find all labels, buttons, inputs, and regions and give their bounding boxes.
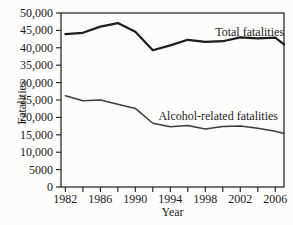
- y-tick-label: 35,000: [20, 58, 53, 72]
- y-tick-label: 5000: [29, 163, 53, 177]
- x-tick-label: 1998: [193, 192, 217, 206]
- y-tick-label: 45,000: [20, 23, 53, 37]
- y-tick-label: 10,000: [20, 145, 53, 159]
- x-tick-label: 1982: [53, 192, 77, 206]
- y-tick-label: 40,000: [20, 41, 53, 55]
- x-tick-label: 1990: [123, 192, 147, 206]
- fatalities-line-chart: 0500010,00015,00020,00025,00030,00035,00…: [0, 0, 293, 225]
- x-tick-label: 2002: [228, 192, 252, 206]
- x-tick-label: 1994: [158, 192, 182, 206]
- y-tick-label: 15,000: [20, 128, 53, 142]
- y-tick-label: 50,000: [20, 6, 53, 20]
- y-axis-title: Fatalities: [16, 76, 29, 130]
- y-tick-label: 0: [47, 180, 53, 194]
- x-tick-label: 1986: [88, 192, 112, 206]
- x-axis-title: Year: [61, 206, 284, 218]
- total-fatalities-series-label: Total fatalities: [215, 26, 284, 38]
- x-tick-label: 2006: [263, 192, 287, 206]
- alcohol-related-fatalities-series-label: Alcohol-related fatalities: [158, 110, 278, 122]
